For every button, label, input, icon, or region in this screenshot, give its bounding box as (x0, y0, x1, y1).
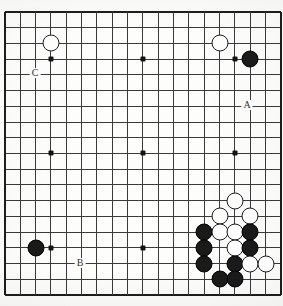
black-stone[interactable] (242, 239, 259, 256)
grid-line-vertical-10 (158, 12, 159, 295)
star-point (140, 151, 145, 156)
black-stone[interactable] (196, 239, 213, 256)
go-board[interactable]: ABC (0, 0, 283, 306)
grid-line-vertical-8 (127, 12, 128, 295)
white-stone[interactable] (211, 208, 228, 225)
white-stone[interactable] (242, 208, 259, 225)
grid-line-vertical-5 (81, 12, 82, 295)
board-label-a: A (241, 100, 252, 110)
black-stone[interactable] (27, 239, 44, 256)
grid-line-vertical-0 (4, 12, 6, 295)
grid-line-vertical-6 (96, 12, 97, 295)
star-point (140, 57, 145, 62)
star-point (48, 57, 53, 62)
grid-line-vertical-11 (173, 12, 174, 295)
board-label-b: B (75, 258, 86, 268)
white-stone[interactable] (211, 35, 228, 52)
white-stone[interactable] (226, 192, 243, 209)
black-stone[interactable] (226, 271, 243, 288)
board-label-c: C (30, 68, 41, 78)
grid-line-vertical-12 (188, 12, 189, 295)
white-stone[interactable] (42, 35, 59, 52)
star-point (48, 245, 53, 250)
grid-line-vertical-18 (280, 12, 282, 295)
white-stone[interactable] (257, 255, 274, 272)
star-point (48, 151, 53, 156)
grid-line-vertical-17 (265, 12, 266, 295)
go-diagram: ABC (0, 0, 283, 306)
black-stone[interactable] (242, 51, 259, 68)
black-stone[interactable] (196, 255, 213, 272)
grid-line-vertical-1 (20, 12, 21, 295)
star-point (140, 245, 145, 250)
grid-line-vertical-14 (219, 12, 220, 295)
star-point (232, 151, 237, 156)
grid-line-vertical-4 (66, 12, 67, 295)
grid-line-vertical-7 (112, 12, 113, 295)
star-point (232, 57, 237, 62)
black-stone[interactable] (242, 224, 259, 241)
